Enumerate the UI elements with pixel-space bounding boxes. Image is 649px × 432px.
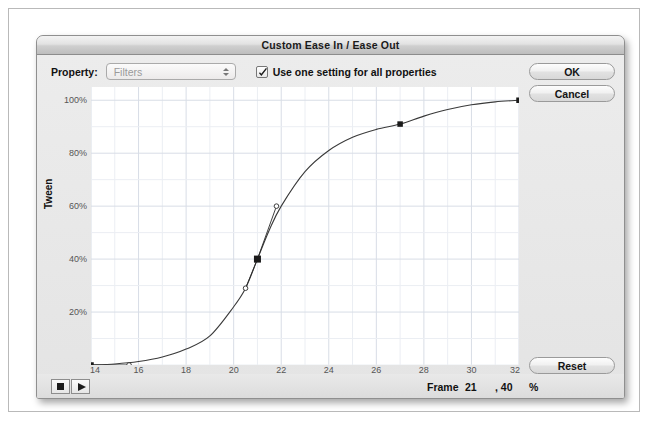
readout-percent-sign: % [529,381,541,393]
ok-button[interactable]: OK [529,63,615,80]
readout-frame-value[interactable]: 21 [465,381,495,393]
dialog-titlebar[interactable]: Custom Ease In / Ease Out [37,36,624,55]
property-label: Property: [51,66,98,78]
readout-frame-label: Frame [427,381,465,393]
curve-svg[interactable] [91,87,519,365]
play-icon [78,383,86,391]
readout-percent-value[interactable]: , 40 [495,381,529,393]
y-axis-tick-labels: 20%40%60%80%100% [59,87,87,365]
stop-button[interactable] [51,379,70,394]
transport-controls [51,379,90,394]
custom-ease-dialog: Custom Ease In / Ease Out Property: Filt… [36,35,625,399]
ease-graph: Tween 20%40%60%80%100% 14161820222426283… [51,87,519,387]
dialog-title: Custom Ease In / Ease Out [261,39,399,51]
cancel-button[interactable]: Cancel [529,85,615,102]
y-tick-label: 100% [64,95,87,105]
use-one-setting-checkbox-row[interactable]: Use one setting for all properties [256,66,437,78]
frame-readout: Frame 21 , 40 % [427,381,541,393]
dialog-bottom-bar: Frame 21 , 40 % [37,374,624,398]
toolbar-row: Property: Filters Use one setting for al… [51,63,437,80]
dialog-body: Property: Filters Use one setting for al… [37,55,624,398]
y-tick-label: 40% [69,254,87,264]
property-select[interactable]: Filters [106,63,236,80]
y-axis-title: Tween [43,179,54,209]
checkbox-icon[interactable] [256,66,268,78]
y-tick-label: 20% [69,307,87,317]
play-button[interactable] [71,379,90,394]
page-border: Custom Ease In / Ease Out Property: Filt… [8,8,640,412]
property-select-value: Filters [107,66,143,78]
reset-button[interactable]: Reset [529,357,615,374]
checkbox-label: Use one setting for all properties [273,66,437,78]
y-tick-label: 60% [69,201,87,211]
curve-plot-area[interactable] [91,87,519,365]
y-tick-label: 80% [69,148,87,158]
stop-icon [57,383,64,390]
select-stepper-arrows-icon [222,66,231,77]
